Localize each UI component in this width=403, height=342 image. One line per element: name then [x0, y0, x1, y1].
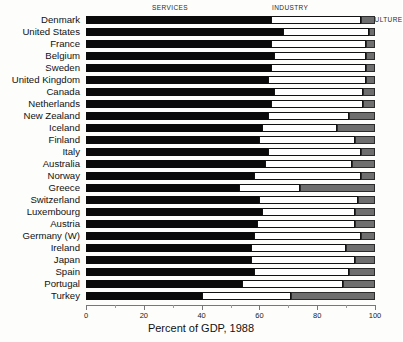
bar-row — [86, 232, 375, 241]
bar-segment-agriculture — [355, 136, 375, 145]
bar-segment-services — [86, 184, 239, 193]
bar-segment-services — [86, 172, 254, 181]
x-tick — [202, 305, 203, 310]
bar-row — [86, 208, 375, 217]
bar-segment-services — [86, 220, 257, 229]
bar-segment-agriculture — [358, 196, 375, 205]
bar-segment-agriculture — [366, 40, 375, 49]
legend-label-services: SERVICES — [152, 4, 188, 11]
bar-segment-industry — [268, 112, 349, 121]
x-tick-label: 40 — [197, 311, 205, 320]
bar-row — [86, 52, 375, 61]
bar-segment-industry — [254, 232, 361, 241]
bar-segment-services — [86, 100, 271, 109]
category-label: France — [50, 39, 80, 48]
x-tick — [144, 305, 145, 310]
category-label: Iceland — [49, 123, 80, 132]
bar-segment-services — [86, 16, 271, 25]
category-label: Ireland — [51, 243, 80, 252]
bar-segment-industry — [271, 40, 366, 49]
bar-segment-agriculture — [349, 112, 375, 121]
bar-row — [86, 280, 375, 289]
bar-row — [86, 16, 375, 25]
bar-row — [86, 124, 375, 133]
bar-segment-agriculture — [361, 148, 375, 157]
bar-row — [86, 112, 375, 121]
x-tick-minor — [288, 305, 289, 308]
bar-segment-industry — [259, 136, 354, 145]
bar-segment-services — [86, 136, 259, 145]
category-label: Denmark — [41, 15, 80, 24]
bar-row — [86, 256, 375, 265]
x-tick — [375, 305, 376, 310]
bar-segment-agriculture — [366, 76, 375, 85]
bar-segment-services — [86, 40, 271, 49]
category-axis-labels: DenmarkUnited StatesFranceBelgiumSwedenU… — [0, 14, 84, 302]
bar-row — [86, 292, 375, 301]
x-tick-label: 60 — [255, 311, 263, 320]
category-label: Canada — [46, 87, 80, 96]
bar-segment-agriculture — [366, 52, 375, 61]
category-label: Portugal — [44, 279, 80, 288]
bar-segment-services — [86, 232, 254, 241]
category-label: United Kingdom — [12, 75, 80, 84]
bar-segment-agriculture — [346, 244, 375, 253]
bar-row — [86, 184, 375, 193]
bar-segment-industry — [268, 148, 360, 157]
bar-row — [86, 244, 375, 253]
bar-segment-services — [86, 160, 265, 169]
category-label: Italy — [62, 147, 80, 156]
bar-segment-services — [86, 268, 254, 277]
bar-segment-industry — [271, 16, 361, 25]
x-tick-minor — [346, 305, 347, 308]
category-label: Spain — [55, 267, 80, 276]
category-label: Netherlands — [28, 99, 80, 108]
bar-segment-services — [86, 244, 251, 253]
bar-segment-industry — [254, 172, 361, 181]
bar-segment-agriculture — [363, 100, 375, 109]
category-label: Turkey — [51, 291, 80, 300]
bar-segment-industry — [239, 184, 300, 193]
x-tick-minor — [231, 305, 232, 308]
bar-row — [86, 220, 375, 229]
bar-segment-services — [86, 208, 262, 217]
bar-segment-industry — [262, 208, 354, 217]
category-label: Luxembourg — [27, 207, 80, 216]
bar-row — [86, 88, 375, 97]
bar-segment-services — [86, 88, 274, 97]
bar-segment-industry — [265, 160, 352, 169]
x-tick-minor — [115, 305, 116, 308]
bar-segment-agriculture — [300, 184, 375, 193]
bar-segment-agriculture — [355, 208, 375, 217]
bar-segment-agriculture — [366, 64, 375, 73]
x-axis-title: Percent of GDP, 1988 — [0, 322, 402, 334]
bar-segment-agriculture — [355, 256, 375, 265]
x-tick-label: 100 — [369, 311, 382, 320]
bar-row — [86, 136, 375, 145]
bar-segment-industry — [259, 196, 357, 205]
x-tick-label: 80 — [313, 311, 321, 320]
bar-row — [86, 76, 375, 85]
bar-row — [86, 172, 375, 181]
bar-segment-agriculture — [343, 280, 375, 289]
bar-segment-agriculture — [361, 16, 375, 25]
bar-row — [86, 64, 375, 73]
bar-segment-services — [86, 196, 259, 205]
bar-segment-services — [86, 292, 202, 301]
category-label: Australia — [43, 159, 80, 168]
bar-segment-agriculture — [337, 124, 375, 133]
plot-area — [86, 14, 375, 302]
category-label: Norway — [47, 171, 80, 180]
category-label: United States — [22, 27, 80, 36]
bar-segment-services — [86, 148, 268, 157]
legend-label-industry: INDUSTRY — [272, 4, 308, 11]
x-tick-label: 20 — [140, 311, 148, 320]
bar-segment-industry — [274, 52, 366, 61]
bar-segment-industry — [202, 292, 292, 301]
bar-segment-agriculture — [349, 268, 375, 277]
category-label: Greece — [49, 183, 80, 192]
bar-segment-agriculture — [369, 28, 375, 37]
bar-row — [86, 40, 375, 49]
bar-row — [86, 148, 375, 157]
